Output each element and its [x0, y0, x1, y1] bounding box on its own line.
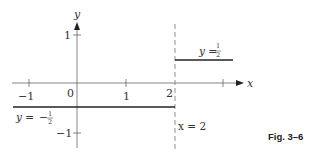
segment-upper-label-lhs: y =: [198, 45, 217, 57]
x-axis-label: x: [247, 77, 254, 90]
segment-lower-label-sign: −: [39, 111, 48, 123]
figure-caption: Fig. 3–6: [268, 131, 303, 142]
y-axis-arrow-icon: [74, 22, 80, 30]
segment-lower-label-lhs: y =: [15, 111, 34, 123]
x-tick-label-0: 0: [67, 87, 74, 100]
x-tick-label-1: 1: [123, 90, 130, 103]
discontinuity-label: x = 2: [178, 120, 206, 132]
segment-lower-label-den: 2: [48, 118, 52, 126]
y-axis-label: y: [73, 8, 81, 21]
x-tick-label-neg1: −1: [18, 90, 34, 103]
step-function-diagram: x y −1 0 1 2 1 −1 x = 2 y = − 1 2 y = 1 …: [0, 0, 321, 152]
x-axis-arrow-icon: [236, 80, 244, 86]
x-tick-label-2: 2: [166, 87, 173, 100]
y-tick-label-1: 1: [64, 29, 71, 42]
segment-upper-label-num: 1: [216, 42, 220, 50]
segment-lower-label-num: 1: [48, 110, 52, 118]
y-tick-label-neg1: −1: [56, 127, 72, 140]
segment-upper-label-den: 2: [216, 51, 220, 59]
